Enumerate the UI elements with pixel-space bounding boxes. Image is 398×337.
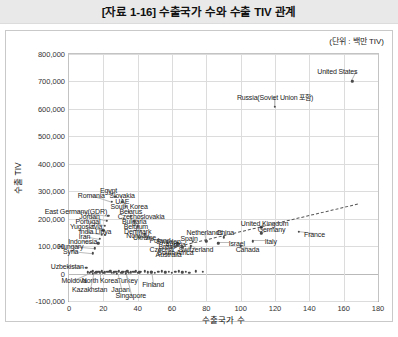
data-point-label: Uzbekistan <box>51 263 84 270</box>
chart-figure: (단위 : 백만 TIV) 수출국가 수 수출 TIV -100,0000100… <box>5 30 393 322</box>
y-axis-tick: -100,000 <box>35 297 65 306</box>
data-point-label: North Korea <box>82 276 118 283</box>
data-point-label: Italy <box>265 238 277 245</box>
x-axis-tick: 80 <box>202 304 210 313</box>
data-point-label: Romania <box>78 192 105 199</box>
data-point-label: Finland <box>142 280 164 287</box>
data-point-label: Syria <box>63 248 78 255</box>
data-point-label: United States <box>317 68 357 75</box>
x-gridline <box>103 54 104 301</box>
x-axis-tick: 40 <box>133 304 141 313</box>
data-point-label: Singapore <box>116 291 147 298</box>
y-axis-tick: 800,000 <box>38 50 65 59</box>
y-gridline <box>69 54 378 55</box>
data-point-label: Canada <box>236 245 260 252</box>
data-point-label: Libya <box>95 228 111 235</box>
x-axis-tick: 100 <box>234 304 247 313</box>
x-gridline <box>206 54 207 301</box>
y-gridline <box>69 164 378 165</box>
y-axis-tick: 700,000 <box>38 77 65 86</box>
y-gridline <box>69 109 378 110</box>
y-gridline <box>69 219 378 220</box>
data-point <box>222 236 224 238</box>
y-axis-tick: 400,000 <box>38 159 65 168</box>
x-gridline <box>344 54 345 301</box>
x-gridline <box>138 54 139 301</box>
data-point-label: Australia <box>156 251 182 258</box>
label-leader-line <box>218 242 228 243</box>
data-point-label: Kazakhstan <box>72 285 107 292</box>
title-bar: [자료 1-16] 수출국가 수와 수출 TIV 관계 <box>0 0 398 24</box>
y-axis-tick: 500,000 <box>38 132 65 141</box>
y-gridline <box>69 301 378 302</box>
x-gridline <box>172 54 173 301</box>
unit-note: (단위 : 백만 TIV) <box>329 35 384 46</box>
x-axis-tick: 20 <box>99 304 107 313</box>
y-axis-tick: 200,000 <box>38 214 65 223</box>
page-title: [자료 1-16] 수출국가 수와 수출 TIV 관계 <box>0 3 398 19</box>
y-axis-tick: 600,000 <box>38 104 65 113</box>
figure-page: [자료 1-16] 수출국가 수와 수출 TIV 관계 (단위 : 백만 TIV… <box>0 0 398 337</box>
x-axis-tick: 120 <box>269 304 282 313</box>
y-gridline <box>69 246 378 247</box>
x-axis-tick: 180 <box>372 304 385 313</box>
x-axis-tick: 140 <box>303 304 316 313</box>
y-axis-tick: 300,000 <box>38 187 65 196</box>
x-axis-tick: 0 <box>67 304 71 313</box>
data-point-label: Russia(Soviet Union 포함) <box>237 92 313 102</box>
y-axis-label: 수출 TIV <box>11 162 23 194</box>
x-axis-tick: 160 <box>337 304 350 313</box>
data-point-label: France <box>304 230 325 237</box>
y-gridline <box>69 81 378 82</box>
data-point <box>143 270 145 272</box>
x-axis-tick: 60 <box>168 304 176 313</box>
label-leader-line <box>253 240 265 241</box>
data-point <box>160 270 162 272</box>
y-gridline <box>69 136 378 137</box>
x-axis-label: 수출국가 수 <box>202 313 244 325</box>
data-point <box>178 270 180 272</box>
scatter-plot-area: 수출국가 수 수출 TIV -100,0000100,000200,000300… <box>68 53 379 302</box>
trend-line <box>165 204 357 250</box>
data-point <box>195 270 197 272</box>
